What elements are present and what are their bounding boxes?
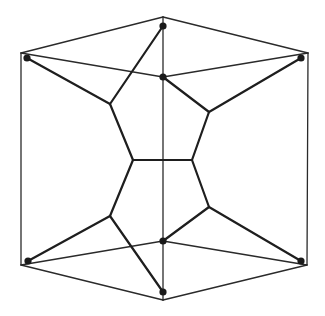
inner-edge — [110, 216, 163, 292]
inner-edge — [192, 160, 209, 207]
graph-drawing — [0, 0, 325, 316]
frame-edge — [307, 53, 308, 265]
vertex-upper-inner — [159, 73, 166, 80]
inner-edge — [163, 77, 209, 112]
frame-edge — [163, 53, 308, 77]
frame-edges — [21, 17, 308, 300]
inner-edge — [110, 26, 163, 104]
vertex-right-upper — [297, 54, 304, 61]
vertex-bottom — [159, 288, 166, 295]
inner-edge — [163, 207, 209, 241]
inner-edge — [209, 58, 301, 112]
frame-edge — [21, 17, 163, 53]
frame-edge — [163, 265, 307, 300]
frame-edge — [163, 17, 308, 53]
vertex-left-upper — [23, 54, 30, 61]
inner-edge — [27, 58, 110, 104]
vertex-left-lower — [24, 257, 31, 264]
vertex-right-lower — [297, 257, 304, 264]
vertex-top — [159, 22, 166, 29]
vertex-lower-inner — [159, 237, 166, 244]
inner-edges — [27, 26, 301, 292]
inner-edge — [28, 216, 110, 261]
frame-edge — [21, 265, 163, 300]
graph-diagram — [0, 0, 325, 316]
inner-edge — [110, 160, 133, 216]
inner-edge — [110, 104, 133, 160]
inner-edge — [209, 207, 301, 261]
inner-edge — [192, 112, 209, 160]
